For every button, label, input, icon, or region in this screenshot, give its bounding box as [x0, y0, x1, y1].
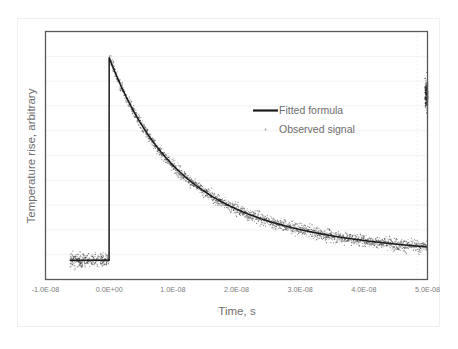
- x-axis-tick-label: 4.0E-08: [351, 285, 376, 294]
- legend-label-observed-signal: Observed signal: [279, 123, 355, 135]
- temperature-decay-chart: -1.0E-080.0E+001.0E-082.0E-083.0E-084.0E…: [0, 0, 458, 349]
- y-axis-title: Temperature rise, arbitrary: [25, 88, 37, 223]
- x-axis-tick-labels: -1.0E-080.0E+001.0E-082.0E-083.0E-084.0E…: [32, 285, 440, 294]
- chart-figure: -1.0E-080.0E+001.0E-082.0E-083.0E-084.0E…: [0, 0, 458, 349]
- x-axis-tick-label: 2.0E-08: [224, 285, 249, 294]
- x-axis-tick-label: 3.0E-08: [288, 285, 313, 294]
- x-axis-tick-label: 0.0E+00: [96, 285, 123, 294]
- x-axis-tick-label: 1.0E-08: [160, 285, 185, 294]
- x-axis-tick-label: 5.0E-08: [415, 285, 440, 294]
- x-axis-title: Time, s: [218, 305, 256, 317]
- observed-signal-scatter: [69, 55, 428, 271]
- legend-dot-marker: [265, 129, 267, 131]
- horizontal-gridlines: [46, 56, 428, 254]
- legend-label-fitted-formula: Fitted formula: [279, 104, 343, 116]
- x-axis-tick-label: -1.0E-08: [32, 285, 60, 294]
